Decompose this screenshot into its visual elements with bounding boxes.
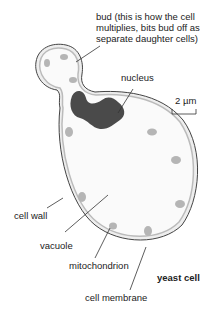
yeast-cell-title: yeast cell	[157, 272, 200, 283]
cell-membrane-label: cell membrane	[85, 292, 147, 303]
bud-leader	[76, 46, 100, 62]
cell-wall-leader	[47, 198, 63, 208]
mitochondrion	[69, 77, 77, 83]
cell-membrane-leader	[130, 247, 146, 290]
bud-label: bud (this is how the cell multiplies, bi…	[96, 11, 200, 44]
vacuole-label: vacuole	[40, 240, 73, 251]
mitochondrion-leader	[95, 228, 110, 258]
cell-wall-label: cell wall	[14, 210, 47, 221]
scale-label: 2 µm	[175, 95, 196, 106]
mitochondrion-label: mitochondrion	[69, 260, 129, 271]
mitochondrion	[65, 127, 73, 137]
mitochondrion	[44, 59, 50, 67]
mitochondrion	[175, 200, 185, 208]
mitochondrion	[171, 156, 181, 164]
mitochondrion	[147, 129, 157, 136]
mitochondrion	[78, 192, 86, 202]
cell-membrane	[40, 48, 194, 236]
mitochondrion	[60, 54, 68, 60]
nucleus-label: nucleus	[121, 72, 154, 83]
cell-body	[36, 44, 198, 240]
mitochondrion	[144, 226, 152, 236]
